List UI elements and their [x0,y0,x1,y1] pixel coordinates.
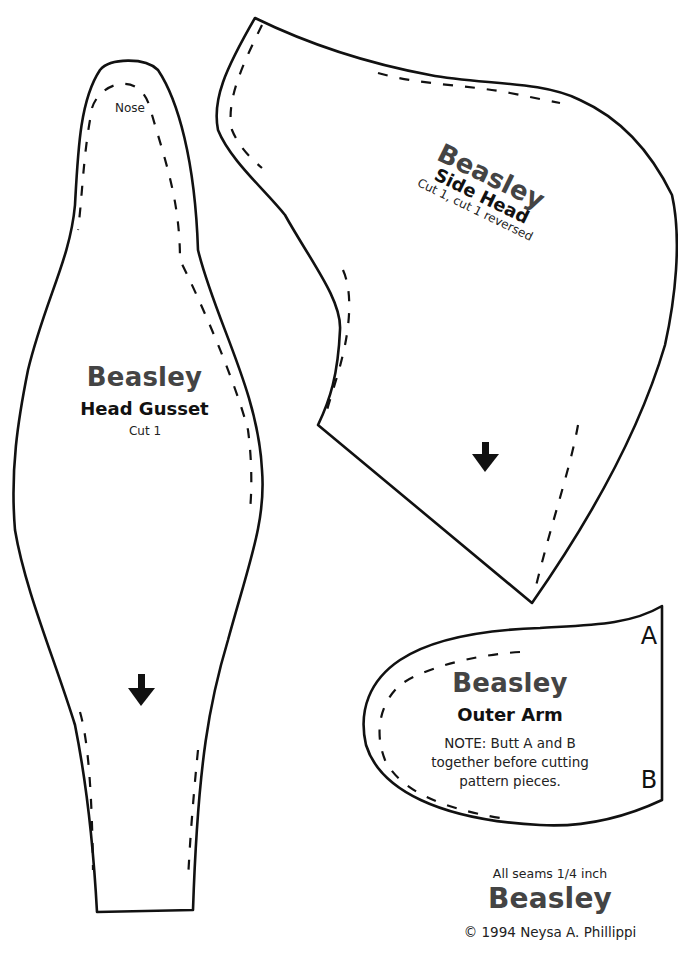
head-gusset-title: Head Gusset [52,398,237,419]
outer-arm-note-line2: together before cutting [410,753,610,772]
nose-label: Nose [107,101,153,115]
side-head-outline [217,18,677,603]
outer-arm-note-line1: NOTE: Butt A and B [410,734,610,753]
outer-arm-title: Outer Arm [420,704,600,725]
outer-arm-note-line3: pattern pieces. [410,772,610,791]
copyright: © 1994 Neysa A. Phillippi [440,924,660,940]
seam-allowance-note: All seams 1/4 inch [460,866,640,881]
head-gusset-outline [13,61,262,912]
outer-arm-name: Beasley [430,668,590,698]
head-gusset-name: Beasley [62,362,227,392]
footer-name: Beasley [460,882,640,915]
head-gusset-cut: Cut 1 [100,424,190,438]
mark-b: B [637,766,661,794]
pattern-sheet [0,0,678,956]
mark-a: A [637,622,661,650]
